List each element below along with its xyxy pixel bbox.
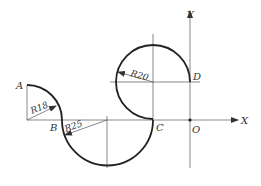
point-label-o: O bbox=[192, 124, 200, 135]
y-axis-label: Y bbox=[187, 9, 195, 20]
point-label-c: C bbox=[156, 122, 164, 133]
dim-label-r20: R20 bbox=[129, 68, 150, 83]
point-label-d: D bbox=[192, 71, 201, 82]
arc-construction-diagram: X Y O R18 R25 R20 A B C D bbox=[0, 0, 261, 186]
point-label-a: A bbox=[15, 80, 23, 91]
dim-label-r18: R18 bbox=[28, 100, 50, 117]
origin-point bbox=[188, 118, 191, 121]
x-axis-label: X bbox=[240, 115, 249, 126]
point-label-b: B bbox=[49, 122, 57, 133]
